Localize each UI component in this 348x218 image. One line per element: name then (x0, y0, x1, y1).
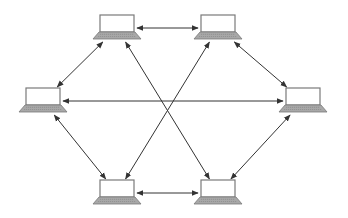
laptop-keyboard (19, 105, 67, 112)
laptop-left (19, 88, 67, 112)
network-diagram (0, 0, 348, 218)
connection-lines (54, 28, 290, 193)
laptop-keyboard (194, 197, 242, 204)
laptop-bottom-left (93, 180, 141, 204)
laptop-top-right (194, 15, 242, 39)
laptop-keyboard (93, 32, 141, 39)
laptop-top-left (93, 15, 141, 39)
laptop-screen (100, 15, 134, 32)
laptop-keyboard (93, 197, 141, 204)
connection-right-bottom-right (231, 115, 290, 179)
diagram-canvas (0, 0, 348, 218)
laptop-keyboard (279, 105, 327, 112)
laptop-screen (201, 15, 235, 32)
laptop-screen (201, 180, 235, 197)
laptop-keyboard (194, 32, 242, 39)
laptop-screen (286, 88, 320, 105)
laptop-bottom-right (194, 180, 242, 204)
laptop-nodes (19, 15, 327, 204)
laptop-right (279, 88, 327, 112)
laptop-screen (26, 88, 60, 105)
connection-top-right-right (234, 42, 286, 87)
connection-bottom-left-left (54, 115, 105, 179)
connection-left-top-left (57, 42, 103, 87)
laptop-screen (100, 180, 134, 197)
